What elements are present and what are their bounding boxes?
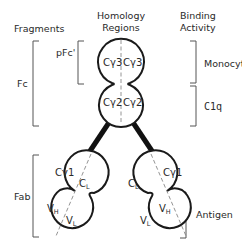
fc-label: Fc (17, 78, 28, 89)
monocyte-bracket (190, 41, 196, 83)
binding-header-line1: Binding (180, 10, 216, 21)
binding-header-line2: Activity (180, 22, 216, 33)
homology-header-line2: Regions (102, 22, 140, 33)
c1q-label: C1q (204, 101, 222, 112)
monocyte-label: Monocyte (204, 58, 242, 69)
fc-bracket (33, 41, 39, 126)
fc-cg3-left: Cγ3 (103, 57, 122, 68)
right-fab-cg1: Cγ1 (163, 167, 182, 178)
right-fab-vl: VL (140, 215, 151, 228)
fragments-header: Fragments (14, 23, 64, 34)
fc-cg3-right: Cγ3 (123, 57, 142, 68)
pfc-label: pFc' (56, 47, 75, 58)
fc-body (98, 39, 144, 127)
fc-cg2-left: Cγ2 (103, 97, 122, 108)
antigen-label: Antigen (196, 209, 233, 220)
homology-header-line1: Homology (97, 10, 146, 21)
igg-antibody-diagram: Fragments Homology Regions Binding Activ… (0, 0, 242, 251)
fab-label: Fab (14, 191, 30, 202)
pfc-bracket (78, 41, 84, 84)
left-fab-cg1: Cγ1 (55, 167, 74, 178)
fab-bracket (33, 155, 39, 237)
c1q-bracket (190, 86, 196, 126)
fc-cg2-right: Cγ2 (123, 97, 142, 108)
left-fab-body (51, 150, 108, 236)
